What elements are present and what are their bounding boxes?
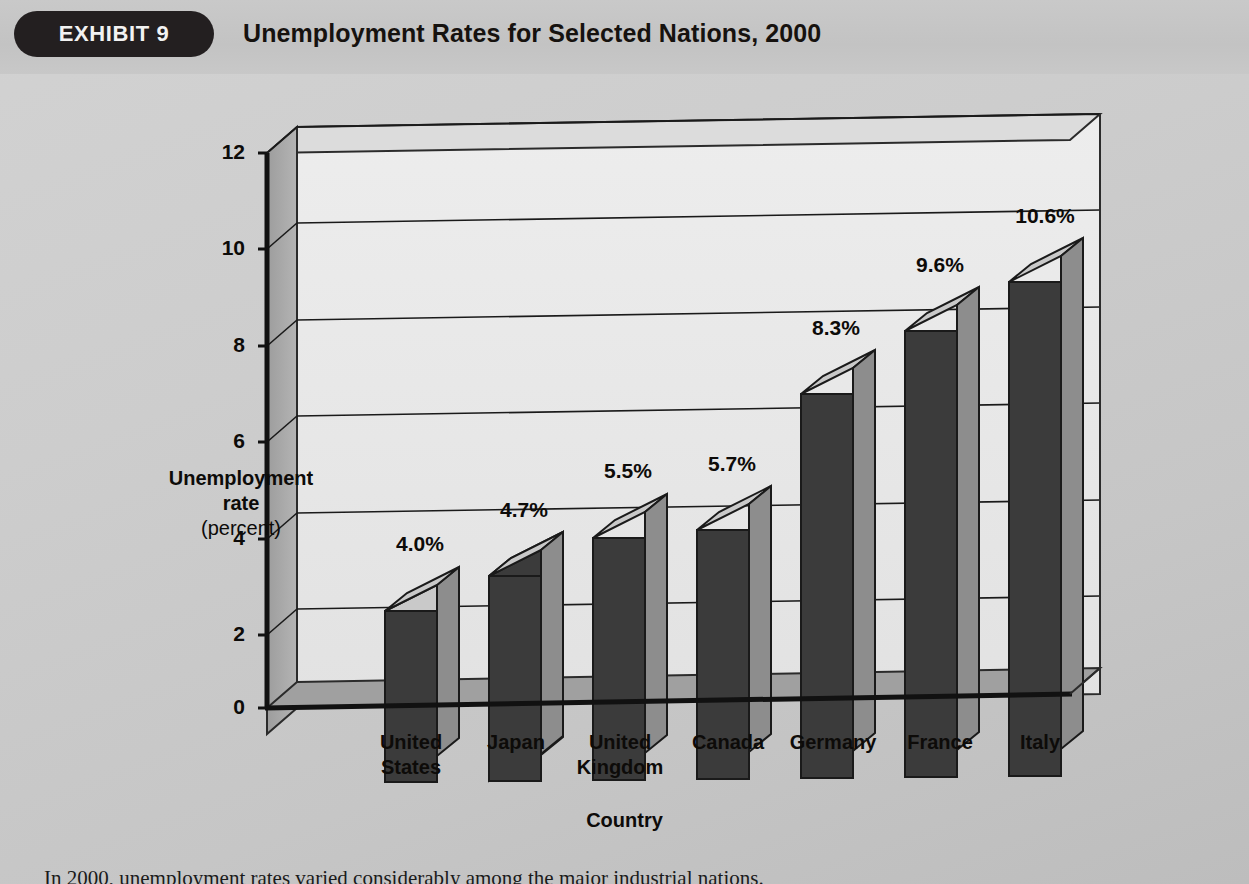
bar-value-canada: 5.7%: [687, 452, 777, 476]
bar-value-france: 9.6%: [895, 253, 985, 277]
y-tick-label-10: 10: [205, 236, 245, 260]
bar-value-united-kingdom: 5.5%: [583, 459, 673, 483]
bar-value-italy: 10.6%: [995, 204, 1095, 228]
exhibit-badge-label: EXHIBIT 9: [59, 21, 170, 47]
y-tick-label-2: 2: [205, 622, 245, 646]
y-tick-label-0: 0: [205, 695, 245, 719]
chart-canvas: [0, 74, 1249, 834]
y-axis-title-units: (percent): [201, 517, 281, 539]
bar-germany: [801, 350, 875, 778]
chart-figure: 12 10 8 6 4 2 0 Unemployment rate (perce…: [0, 74, 1249, 834]
x-label-italy: Italy: [1005, 730, 1075, 755]
x-label-france: France: [895, 730, 985, 755]
bar-value-germany: 8.3%: [791, 316, 881, 340]
exhibit-page: EXHIBIT 9 Unemployment Rates for Selecte…: [0, 0, 1249, 884]
bar-value-united-states: 4.0%: [375, 532, 465, 556]
chart-left-wall: [267, 127, 297, 734]
x-label-germany: Germany: [778, 730, 888, 755]
x-label-united-kingdom: UnitedKingdom: [555, 730, 685, 780]
page-title: Unemployment Rates for Selected Nations,…: [243, 19, 821, 48]
exhibit-badge: EXHIBIT 9: [14, 11, 214, 57]
x-label-canada: Canada: [683, 730, 773, 755]
y-axis-title: Unemployment rate (percent): [150, 466, 332, 541]
y-axis-title-main: Unemployment rate: [169, 467, 313, 514]
bar-value-japan: 4.7%: [479, 498, 569, 522]
figure-caption: In 2000, unemployment rates varied consi…: [44, 866, 1204, 884]
x-axis-title: Country: [0, 809, 1249, 832]
bar-france: [905, 287, 979, 777]
header-band: EXHIBIT 9 Unemployment Rates for Selecte…: [0, 0, 1249, 74]
x-label-japan: Japan: [481, 730, 551, 755]
y-tick-label-8: 8: [205, 333, 245, 357]
y-tick-label-12: 12: [205, 140, 245, 164]
y-tick-label-6: 6: [205, 429, 245, 453]
x-label-united-states: UnitedStates: [351, 730, 471, 780]
